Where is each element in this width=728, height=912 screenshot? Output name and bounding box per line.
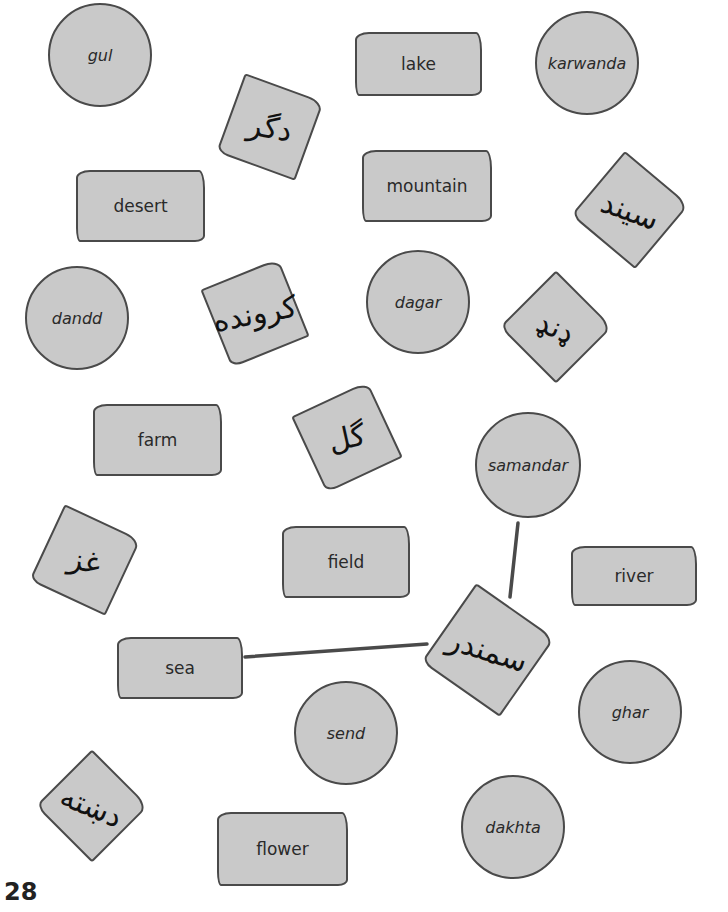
tile-label: غز <box>65 539 104 580</box>
tile-dakhta-script[interactable]: دښته <box>35 749 148 862</box>
card-label: sea <box>165 658 195 678</box>
worksheet-page: gul karwanda dandd dagar samandar ghar s… <box>0 0 728 912</box>
card-sea[interactable]: sea <box>117 637 243 699</box>
card-flower[interactable]: flower <box>217 812 348 886</box>
tile-karwanda-script[interactable]: کرونده <box>200 258 309 367</box>
card-river[interactable]: river <box>571 546 697 606</box>
card-desert[interactable]: desert <box>76 170 205 242</box>
tile-ghar-script[interactable]: غز <box>29 504 141 616</box>
page-number: 28 <box>4 878 37 906</box>
card-label: lake <box>401 54 436 74</box>
card-farm[interactable]: farm <box>93 404 222 476</box>
circle-label: dandd <box>52 309 102 328</box>
card-label: farm <box>138 430 178 450</box>
tile-label: سیند <box>596 183 663 236</box>
tile-label: کرونده <box>210 288 300 339</box>
tile-samandar-script[interactable]: سمندر <box>421 583 555 717</box>
tile-label: دښته <box>56 778 128 835</box>
circle-dakhta[interactable]: dakhta <box>461 775 565 879</box>
card-mountain[interactable]: mountain <box>362 150 492 222</box>
card-label: river <box>614 566 653 586</box>
card-field[interactable]: field <box>282 526 410 598</box>
card-label: mountain <box>386 176 467 196</box>
circle-label: ghar <box>612 703 649 722</box>
tile-label: گل <box>325 416 369 458</box>
circle-label: dakhta <box>485 818 540 837</box>
circle-dandd[interactable]: dandd <box>25 266 129 370</box>
card-lake[interactable]: lake <box>355 32 482 96</box>
connection-line-sea <box>245 644 427 657</box>
circle-label: gul <box>88 46 113 65</box>
tile-sind-script[interactable]: سیند <box>571 151 689 269</box>
card-label: field <box>328 552 365 572</box>
circle-dagar[interactable]: dagar <box>366 250 470 354</box>
circle-karwanda[interactable]: karwanda <box>535 11 639 115</box>
card-label: desert <box>113 196 167 216</box>
circle-label: karwanda <box>548 54 627 73</box>
circle-samandar[interactable]: samandar <box>475 412 581 518</box>
tile-label: سمندر <box>444 621 533 679</box>
card-label: flower <box>256 839 308 859</box>
tile-label: ډنډ <box>532 304 580 351</box>
tile-dandd-script[interactable]: ډنډ <box>499 270 612 383</box>
circle-ghar[interactable]: ghar <box>578 660 682 764</box>
circle-label: dagar <box>395 293 442 312</box>
circle-send[interactable]: send <box>294 681 398 785</box>
tile-gul-script[interactable]: گل <box>291 381 403 493</box>
tile-dagar-script[interactable]: دگر <box>216 73 324 181</box>
connection-line-samandar <box>510 523 518 597</box>
circle-gul[interactable]: gul <box>48 3 152 107</box>
tile-label: دگر <box>245 106 295 148</box>
circle-label: samandar <box>488 456 568 475</box>
circle-label: send <box>327 724 365 743</box>
